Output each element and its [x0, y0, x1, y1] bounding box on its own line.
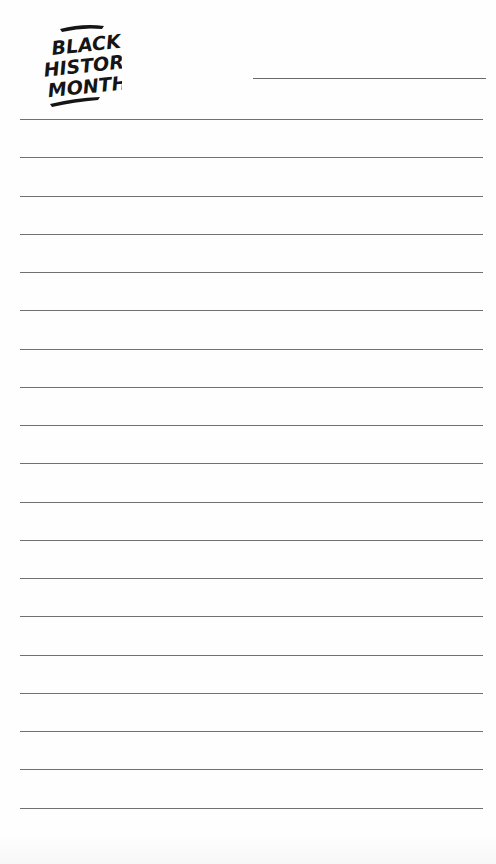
ruled-line[interactable]: [20, 808, 483, 809]
ruled-line[interactable]: [20, 157, 483, 158]
ruled-line[interactable]: [20, 272, 483, 273]
ruled-line[interactable]: [20, 616, 483, 617]
ruled-line[interactable]: [20, 349, 483, 350]
ruled-line[interactable]: [20, 425, 483, 426]
ruled-line[interactable]: [20, 387, 483, 388]
ruled-line[interactable]: [20, 578, 483, 579]
ruled-line[interactable]: [20, 693, 483, 694]
lined-paper-page: BLACK HISTORY MONTH: [0, 0, 496, 864]
ruled-line[interactable]: [20, 463, 483, 464]
ruled-line[interactable]: [20, 540, 483, 541]
ruled-line[interactable]: [20, 196, 483, 197]
black-history-month-logo: BLACK HISTORY MONTH: [38, 20, 122, 108]
brush-stroke-top-icon: [60, 25, 104, 32]
ruled-line[interactable]: [20, 655, 483, 656]
ruled-line[interactable]: [20, 769, 483, 770]
ruled-line[interactable]: [20, 502, 483, 503]
ruled-line[interactable]: [20, 234, 483, 235]
ruled-line[interactable]: [20, 310, 483, 311]
logo-graphic: BLACK HISTORY MONTH: [38, 20, 122, 108]
ruled-line[interactable]: [20, 119, 483, 120]
ruled-line[interactable]: [20, 731, 483, 732]
name-field-line[interactable]: [253, 78, 486, 79]
page-bottom-shadow: [0, 834, 496, 864]
